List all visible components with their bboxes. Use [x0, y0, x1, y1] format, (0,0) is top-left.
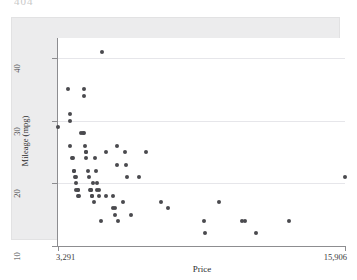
data-point: [202, 219, 206, 223]
data-point: [129, 213, 133, 217]
plot-area: [58, 38, 345, 246]
data-point: [83, 144, 87, 148]
data-point: [104, 194, 108, 198]
data-point: [100, 50, 104, 54]
data-point: [116, 219, 120, 223]
chart-figure-panel: 10203040 3,29115,906 Mileage (mpg) Price: [11, 17, 340, 240]
data-point: [123, 150, 127, 154]
gridline-y-20: [58, 183, 345, 184]
gridline-y-40: [58, 58, 345, 59]
data-point: [82, 131, 86, 135]
data-point: [68, 119, 72, 123]
gridline-y-30: [58, 121, 345, 122]
data-point: [76, 188, 80, 192]
y-tick-mark-10: [52, 246, 57, 247]
data-point: [56, 125, 60, 129]
data-point: [68, 144, 72, 148]
y-axis-line: [57, 38, 58, 247]
x-axis-line: [58, 246, 346, 247]
data-point: [94, 169, 98, 173]
x-tick-label-1: 15,906: [315, 252, 347, 262]
y-tick-label-10: 10: [13, 247, 22, 267]
y-tick-label-40: 40: [13, 59, 22, 79]
data-point: [86, 169, 90, 173]
data-point: [97, 188, 101, 192]
data-point: [87, 175, 91, 179]
data-point: [89, 188, 93, 192]
data-point: [115, 144, 119, 148]
data-point: [343, 175, 347, 179]
y-tick-mark-20: [52, 183, 57, 184]
data-point: [113, 213, 117, 217]
data-point: [84, 150, 88, 154]
data-point: [111, 194, 115, 198]
data-point: [137, 175, 141, 179]
y-tick-mark-40: [52, 58, 57, 59]
data-point: [82, 94, 86, 98]
page-number-fragment: 404: [14, 0, 34, 6]
x-axis-title: Price: [58, 264, 346, 274]
data-point: [90, 194, 94, 198]
y-tick-mark-30: [52, 121, 57, 122]
data-point: [124, 163, 128, 167]
x-tick-mark-0: [58, 247, 59, 251]
x-tick-mark-1: [345, 247, 346, 251]
y-axis-title: Mileage (mpg): [20, 96, 30, 186]
data-point: [243, 219, 247, 223]
y-tick-label-20: 20: [13, 184, 22, 204]
data-point: [77, 194, 81, 198]
x-tick-label-0: 3,291: [56, 252, 75, 262]
data-point: [144, 150, 148, 154]
data-point: [104, 150, 108, 154]
data-point: [115, 163, 119, 167]
